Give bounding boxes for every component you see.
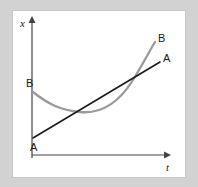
y-axis-label: x	[19, 17, 25, 29]
label-a-left: A	[30, 141, 38, 153]
label-a-right: A	[163, 52, 171, 64]
x-axis-label: t	[166, 161, 170, 173]
label-b-right: B	[158, 32, 165, 44]
label-b-left: B	[26, 77, 33, 89]
plot-svg: x t B B A A	[0, 0, 198, 187]
figure-root: x t B B A A	[0, 0, 198, 187]
curve-a	[33, 62, 160, 138]
